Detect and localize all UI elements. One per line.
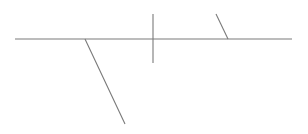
upper-right-slant-line [216,14,228,39]
diagram-canvas [0,0,308,134]
lower-left-slant-line [85,39,125,124]
line-diagram [0,0,308,134]
